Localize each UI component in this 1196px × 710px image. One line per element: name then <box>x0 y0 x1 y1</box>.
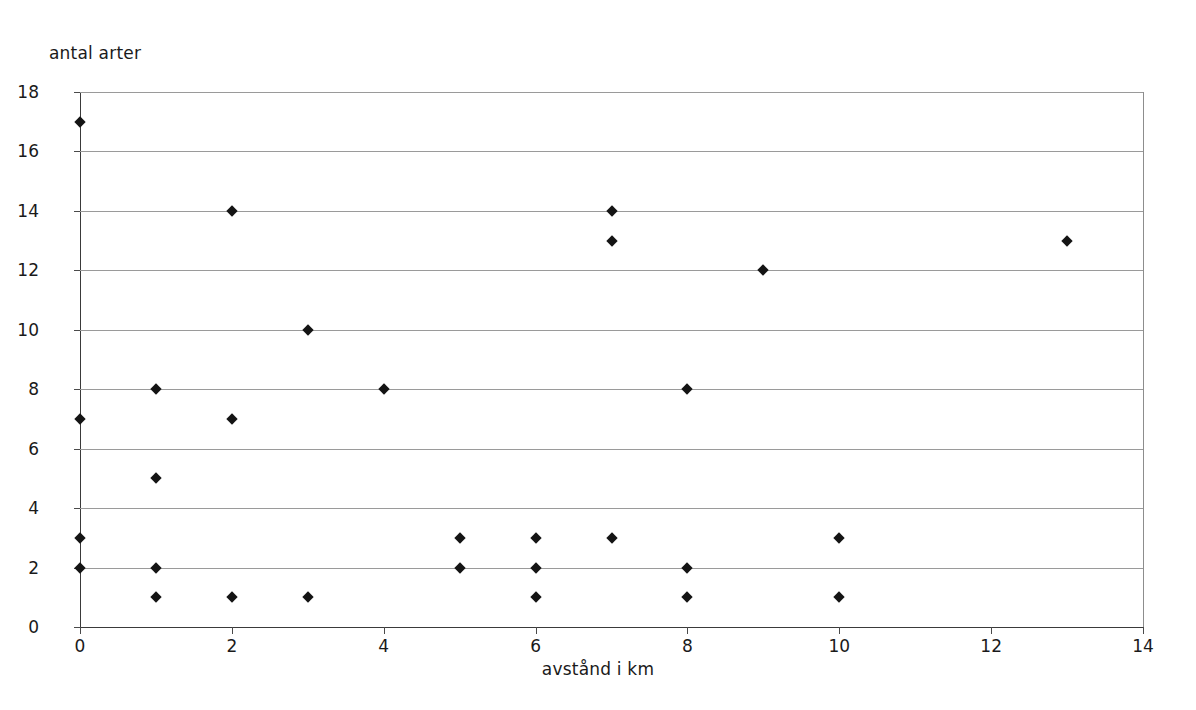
y-tick-label: 16 <box>17 141 39 161</box>
data-point-marker <box>226 592 237 603</box>
gridline-horizontal <box>80 330 1143 331</box>
y-tick-label: 4 <box>28 498 39 518</box>
y-tick-mark <box>74 389 80 390</box>
data-point-marker <box>150 473 161 484</box>
data-point-marker <box>454 532 465 543</box>
y-tick-label: 2 <box>28 558 39 578</box>
x-tick-mark <box>1143 627 1144 634</box>
gridline-horizontal <box>80 92 1143 93</box>
y-axis-title: antal arter <box>49 43 141 63</box>
data-point-marker <box>226 413 237 424</box>
x-tick-mark <box>991 627 992 634</box>
x-axis-title: avstånd i km <box>0 659 1196 679</box>
data-point-marker <box>530 562 541 573</box>
data-point-marker <box>150 384 161 395</box>
data-point-marker <box>606 205 617 216</box>
gridline-horizontal <box>80 449 1143 450</box>
plot-right-border <box>1143 92 1144 628</box>
data-point-marker <box>150 592 161 603</box>
data-point-marker <box>302 592 313 603</box>
data-point-marker <box>530 592 541 603</box>
data-point-marker <box>74 116 85 127</box>
x-tick-label: 0 <box>75 636 86 656</box>
data-point-marker <box>74 413 85 424</box>
x-tick-label: 12 <box>980 636 1002 656</box>
x-tick-mark <box>80 627 81 634</box>
x-tick-label: 6 <box>530 636 541 656</box>
data-point-marker <box>682 562 693 573</box>
data-point-marker <box>530 532 541 543</box>
x-tick-label: 2 <box>226 636 237 656</box>
data-point-marker <box>302 324 313 335</box>
y-tick-label: 14 <box>17 201 39 221</box>
gridline-horizontal <box>80 151 1143 152</box>
plot-area <box>80 92 1143 627</box>
y-tick-mark <box>74 151 80 152</box>
y-tick-mark <box>74 449 80 450</box>
x-tick-mark <box>384 627 385 634</box>
x-tick-label: 8 <box>682 636 693 656</box>
y-tick-label: 18 <box>17 82 39 102</box>
x-tick-mark <box>839 627 840 634</box>
gridline-horizontal <box>80 508 1143 509</box>
x-tick-label: 10 <box>828 636 850 656</box>
x-tick-label: 4 <box>378 636 389 656</box>
data-point-marker <box>606 532 617 543</box>
y-tick-mark <box>74 508 80 509</box>
y-tick-mark <box>74 270 80 271</box>
y-tick-mark <box>74 211 80 212</box>
data-point-marker <box>226 205 237 216</box>
data-point-marker <box>682 384 693 395</box>
data-point-marker <box>74 562 85 573</box>
data-point-marker <box>150 562 161 573</box>
data-point-marker <box>758 265 769 276</box>
x-tick-mark <box>687 627 688 634</box>
data-point-marker <box>834 592 845 603</box>
data-point-marker <box>1061 235 1072 246</box>
x-tick-mark <box>536 627 537 634</box>
data-point-marker <box>74 532 85 543</box>
gridline-horizontal <box>80 568 1143 569</box>
y-tick-label: 6 <box>28 439 39 459</box>
y-tick-label: 10 <box>17 320 39 340</box>
y-tick-label: 0 <box>28 617 39 637</box>
data-point-marker <box>682 592 693 603</box>
x-tick-label: 14 <box>1132 636 1154 656</box>
scatter-plot-figure: antal arter 024681012141618 02468101214 … <box>0 0 1196 710</box>
x-axis-line <box>80 627 1143 628</box>
data-point-marker <box>378 384 389 395</box>
y-tick-label: 12 <box>17 260 39 280</box>
y-tick-mark <box>74 330 80 331</box>
data-point-marker <box>606 235 617 246</box>
y-tick-mark <box>74 92 80 93</box>
data-point-marker <box>454 562 465 573</box>
y-tick-label: 8 <box>28 379 39 399</box>
data-point-marker <box>834 532 845 543</box>
gridline-horizontal <box>80 389 1143 390</box>
gridline-horizontal <box>80 270 1143 271</box>
x-tick-mark <box>232 627 233 634</box>
